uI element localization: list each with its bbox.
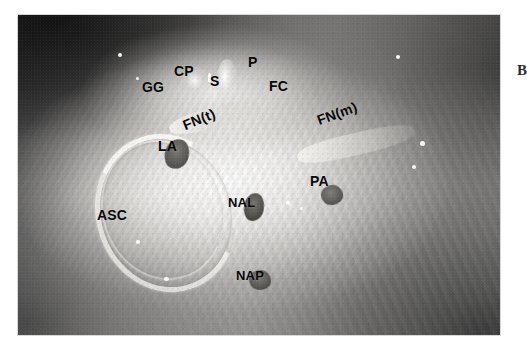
- label-gg: GG: [142, 80, 164, 94]
- label-nap: NAP: [236, 269, 264, 282]
- figure-panel-letter: B: [517, 62, 527, 79]
- label-fc: FC: [269, 79, 288, 93]
- photo-vignette: [18, 15, 500, 335]
- label-la: LA: [158, 139, 177, 153]
- label-cp: CP: [174, 64, 194, 78]
- label-p: P: [248, 55, 258, 69]
- label-pa: PA: [310, 174, 329, 188]
- label-asc: ASC: [97, 208, 127, 222]
- label-s: S: [210, 74, 220, 88]
- label-nal: NAL: [228, 196, 255, 209]
- anatomical-photograph: GG CP S P FC FN(t) FN(m) LA ASC NAL PA N…: [18, 15, 500, 335]
